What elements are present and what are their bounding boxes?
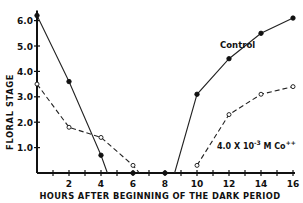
control-data-point xyxy=(131,171,135,175)
control-series-line xyxy=(37,16,107,173)
x-tick-label: 12 xyxy=(223,179,236,189)
co-annotation: 4.0 X 10-3 M Co++ xyxy=(217,139,296,151)
x-tick-label: 16 xyxy=(287,179,300,189)
x-tick-label: 4 xyxy=(98,179,104,189)
control-data-point xyxy=(227,57,231,61)
co-series-line xyxy=(197,87,293,166)
y-tick-label: 1.0 xyxy=(17,143,33,153)
x-tick-label: 8 xyxy=(162,179,168,189)
co-data-point xyxy=(99,135,103,139)
co-data-point xyxy=(291,85,295,89)
control-annotation: Control xyxy=(220,40,255,50)
x-tick-label: 10 xyxy=(191,179,204,189)
control-data-point xyxy=(259,31,263,35)
control-data-point xyxy=(99,153,103,157)
co-data-point xyxy=(227,113,231,117)
y-tick-label: 3.0 xyxy=(17,92,33,102)
co-data-point xyxy=(259,92,263,96)
control-data-point xyxy=(67,79,71,83)
control-data-point xyxy=(291,16,295,20)
y-axis-label: FLORAL STAGE xyxy=(5,74,15,150)
control-data-point xyxy=(163,171,167,175)
y-tick-label: 6.0 xyxy=(17,16,33,26)
y-tick-label: 4.0 xyxy=(17,67,33,77)
y-tick-label: 2.0 xyxy=(17,118,33,128)
floral-stage-chart: 1.02.03.04.05.06.0246810121416HOURS AFTE… xyxy=(0,0,303,203)
co-data-point xyxy=(131,163,135,167)
co-data-point xyxy=(195,163,199,167)
control-data-point xyxy=(195,92,199,96)
x-tick-label: 2 xyxy=(66,179,72,189)
y-tick-label: 5.0 xyxy=(17,42,33,52)
co-data-point xyxy=(35,82,39,86)
control-data-point xyxy=(35,13,39,17)
co-series-line xyxy=(37,84,139,173)
x-axis-label: HOURS AFTER BEGINNING OF THE DARK PERIOD xyxy=(39,191,280,201)
co-data-point xyxy=(67,125,71,129)
x-tick-label: 14 xyxy=(255,179,268,189)
x-tick-label: 6 xyxy=(130,179,136,189)
